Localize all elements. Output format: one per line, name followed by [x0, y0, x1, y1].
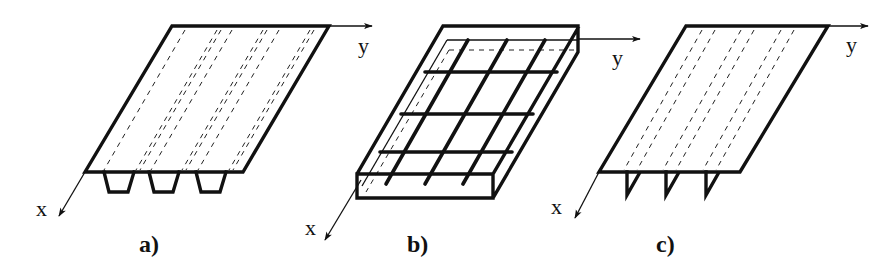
panel-a-hidden-rib-lines	[104, 30, 314, 170]
panel-c-ribbed-slab: y x c)	[551, 26, 868, 257]
panel-c-x-label: x	[551, 194, 562, 219]
panel-a-x-label: x	[36, 196, 47, 221]
slab-types-diagram: x a) y y x b)	[0, 0, 895, 276]
panel-a-trapezoidal-ribs	[104, 172, 226, 192]
panel-c-y-label: y	[846, 32, 857, 57]
panel-b-y-label: y	[612, 45, 623, 70]
panel-a-y-label: y	[358, 33, 369, 58]
panel-a-ribbed-slab: x a)	[36, 26, 372, 257]
panel-c-triangular-ribs	[627, 172, 718, 195]
panel-c-label: c)	[656, 231, 675, 257]
panel-c-hidden-rib-lines	[624, 30, 794, 170]
panel-a-label: a)	[139, 231, 159, 257]
panel-b-reinforced-slab: y y x b)	[305, 26, 640, 257]
panel-c-x-axis-arrow	[575, 172, 599, 218]
panel-b-label: b)	[407, 231, 428, 257]
panel-c-slab-outline	[599, 26, 828, 172]
panel-b-x-axis-arrow	[325, 180, 361, 240]
panel-b-reinforcement-bars-x	[386, 40, 545, 184]
panel-a-x-axis-arrow	[59, 172, 85, 216]
panel-b-x-label: x	[305, 215, 316, 240]
